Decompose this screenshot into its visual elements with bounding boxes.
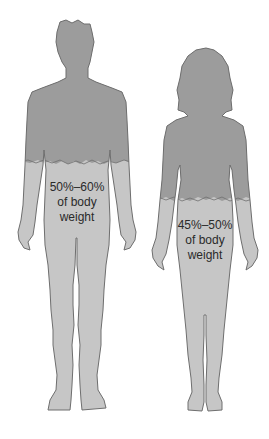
female-water-label: 45%–50% of body weight [178,218,233,263]
female-upper-body-region [150,0,269,201]
male-weight-text: weight [50,210,105,225]
female-weight-text: weight [178,248,233,263]
female-figure [150,0,269,411]
male-of-body-text: of body [50,195,105,210]
male-percentage-text: 50%–60% [50,180,105,195]
male-upper-body-region [0,0,140,164]
body-water-figure: 50%–60% of body weight 45%–50% of body w… [0,0,269,439]
male-water-label: 50%–60% of body weight [50,180,105,225]
female-of-body-text: of body [178,233,233,248]
female-percentage-text: 45%–50% [178,218,233,233]
